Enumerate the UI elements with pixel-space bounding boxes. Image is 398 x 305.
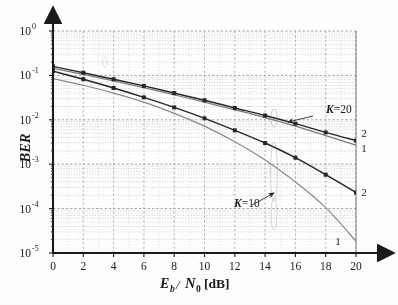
data-marker: [172, 105, 176, 109]
x-axis-title-eb: E: [159, 276, 169, 291]
x-tick-label: 18: [320, 260, 332, 272]
x-axis-title-b-sub: b: [170, 284, 175, 294]
x-tick-label: 4: [111, 260, 117, 272]
curve-end-label: 1: [361, 142, 367, 154]
ber-vs-ebn0-chart: 10010-110-210-310-410-5 0246810121416182…: [0, 0, 398, 305]
ber-chart-figure: 10010-110-210-310-410-5 0246810121416182…: [0, 0, 398, 305]
x-tick-label: 16: [290, 260, 302, 272]
x-axis-title-n: N: [184, 275, 196, 291]
data-marker: [293, 122, 297, 126]
data-marker: [172, 91, 176, 95]
y-axis-title: BER: [17, 133, 33, 163]
svg-text:10: 10: [20, 114, 32, 126]
x-tick-label: 8: [171, 260, 177, 272]
data-marker: [324, 130, 328, 134]
data-marker: [203, 98, 207, 102]
svg-text:10: 10: [20, 203, 32, 215]
svg-text:10: 10: [20, 69, 32, 81]
data-marker: [81, 77, 85, 81]
curve-end-label: 1: [335, 235, 341, 247]
data-marker: [293, 156, 297, 160]
data-marker: [142, 95, 146, 99]
data-marker: [112, 77, 116, 81]
data-marker: [263, 141, 267, 145]
data-marker: [233, 106, 237, 110]
x-tick-label: 10: [199, 260, 211, 272]
data-marker: [81, 71, 85, 75]
curve-end-label: 2: [361, 186, 367, 198]
data-marker: [324, 173, 328, 177]
x-tick-label: 0: [50, 260, 56, 272]
svg-text:-4: -4: [32, 200, 39, 209]
x-tick-label: 2: [80, 260, 86, 272]
data-marker: [233, 128, 237, 132]
svg-text:10: 10: [20, 25, 32, 37]
svg-text:10: 10: [20, 247, 32, 259]
x-axis-title-unit: [dB]: [204, 276, 230, 291]
svg-text:-3: -3: [32, 155, 39, 164]
data-marker: [112, 86, 116, 90]
data-marker: [203, 116, 207, 120]
x-tick-label: 6: [141, 260, 147, 272]
data-marker: [263, 114, 267, 118]
x-axis-title-zero-sub: 0: [196, 284, 201, 294]
x-tick-label: 20: [350, 260, 362, 272]
annotation-label: K=20: [325, 103, 352, 115]
curve-end-label: 2: [361, 127, 367, 139]
svg-text:-1: -1: [32, 66, 39, 75]
x-tick-label: 14: [259, 260, 271, 272]
svg-text:0: 0: [32, 22, 36, 31]
x-tick-label: 12: [229, 260, 241, 272]
svg-text:-2: -2: [32, 111, 39, 120]
data-marker: [142, 84, 146, 88]
svg-text:-5: -5: [32, 244, 39, 253]
